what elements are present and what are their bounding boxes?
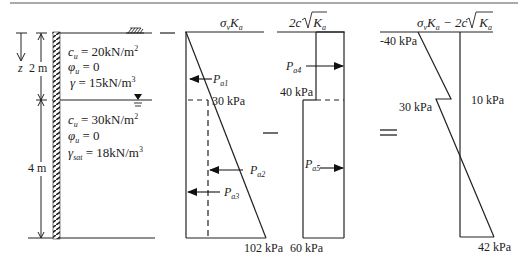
retaining-wall xyxy=(53,32,60,239)
diagram2-header: 2cKa xyxy=(289,15,326,32)
label-42kpa: 42 kPa xyxy=(478,240,512,254)
soil-profile: z 2 m 4 m cu = 20kN/m2 φu = 0 γ = 15kN/m… xyxy=(16,28,175,239)
dim-2m-label: 2 m xyxy=(29,61,48,75)
svg-text:cu = 30kN/m2: cu = 30kN/m2 xyxy=(68,112,138,129)
label-30kpa-d1: 30 kPa xyxy=(212,94,246,108)
label-60kpa: 60 kPa xyxy=(290,241,324,255)
layer1-properties: cu = 20kN/m2 φu = 0 γ = 15kN/m3 xyxy=(68,44,138,90)
svg-text:γsat = 18kN/m3: γsat = 18kN/m3 xyxy=(68,145,143,162)
depth-z-label: z xyxy=(17,61,23,75)
label-40kpa: 40 kPa xyxy=(280,85,314,99)
diagram-cohesion-term: 2cKa 40 kPa 60 kPa Pa4 Pa5 xyxy=(277,12,345,255)
force-pa3: Pa3 xyxy=(223,185,239,201)
force-pa5: Pa5 xyxy=(304,157,320,173)
earth-pressure-diagram: z 2 m 4 m cu = 20kN/m2 φu = 0 γ = 15kN/m… xyxy=(0,0,528,265)
dim-4m-label: 4 m xyxy=(28,161,47,175)
force-pa1: Pa1 xyxy=(212,72,228,88)
force-pa2: Pa2 xyxy=(249,163,265,179)
label-102kpa: 102 kPa xyxy=(244,241,284,255)
diagram3-header: σvKa − 2cKa xyxy=(417,15,492,32)
svg-text:γ = 15kN/m3: γ = 15kN/m3 xyxy=(70,75,136,90)
label-10kpa: 10 kPa xyxy=(471,93,505,107)
force-pa4: Pa4 xyxy=(285,59,301,75)
label-30kpa-d3: 30 kPa xyxy=(399,100,433,114)
diagram1-header: σvKa xyxy=(220,15,243,32)
svg-text:φu = 0: φu = 0 xyxy=(68,59,100,76)
layer2-properties: cu = 30kN/m2 φu = 0 γsat = 18kN/m3 xyxy=(68,112,143,162)
svg-text:φu = 0: φu = 0 xyxy=(68,128,100,145)
diagram-net-pressure: σvKa − 2cKa -40 kPa 30 kPa 10 kPa 42 kPa xyxy=(380,12,512,254)
label-minus40kpa: -40 kPa xyxy=(380,34,418,48)
diagram-active-pressure: σvKa 30 kPa 102 kPa Pa1 Pa2 Pa3 xyxy=(185,15,284,255)
operator-equals xyxy=(380,130,397,135)
ground-surface-icon xyxy=(126,28,144,33)
